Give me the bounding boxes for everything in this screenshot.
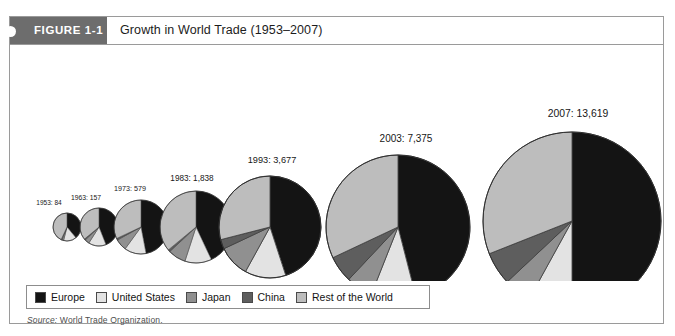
legend-label: China (258, 291, 285, 303)
legend-item: United States (96, 291, 175, 303)
figure-header: FIGURE 1-1 Growth in World Trade (1953–2… (10, 17, 663, 45)
legend-item: China (242, 291, 285, 303)
pie-value-label-1983: 1983: 1,838 (170, 174, 214, 183)
pie-chart-1993 (219, 176, 321, 278)
pie-chart-1963 (80, 208, 118, 246)
pie-series-group (53, 132, 661, 281)
pie-chart-plot-area: 1953: 841963: 1571973: 5791983: 1,838199… (10, 45, 663, 281)
chart-legend: EuropeUnited StatesJapanChinaRest of the… (26, 285, 430, 309)
figure-title: Growth in World Trade (1953–2007) (120, 17, 322, 44)
pie-value-label-1953: 1953: 84 (36, 199, 62, 206)
legend-swatch-icon (296, 292, 307, 303)
legend-label: United States (112, 291, 175, 303)
legend-swatch-icon (96, 292, 107, 303)
source-value: World Trade Organization. (60, 315, 163, 325)
pie-value-label-2007: 2007: 13,619 (548, 108, 609, 119)
pie-slice-2003-europe (398, 155, 470, 281)
legend-item: Japan (186, 291, 231, 303)
pie-value-label-2003: 2003: 7,375 (380, 133, 433, 144)
legend-label: Europe (51, 291, 85, 303)
source-note: Source: World Trade Organization. (27, 315, 163, 325)
pie-chart-2007 (483, 132, 661, 281)
legend-label: Japan (202, 291, 231, 303)
pie-value-label-1993: 1993: 3,677 (248, 155, 297, 165)
legend-item: Europe (35, 291, 85, 303)
pie-chart-1953 (53, 213, 81, 241)
pie-chart-2003 (326, 155, 470, 281)
legend-item: Rest of the World (296, 291, 393, 303)
legend-swatch-icon (186, 292, 197, 303)
source-label: Source: (27, 315, 57, 325)
legend-swatch-icon (242, 292, 253, 303)
figure-number-tab: FIGURE 1-1 (10, 17, 107, 44)
legend-swatch-icon (35, 292, 46, 303)
tab-notch-decoration (5, 26, 16, 37)
pie-value-label-1963: 1963: 157 (71, 194, 101, 201)
figure-container: FIGURE 1-1 Growth in World Trade (1953–2… (9, 16, 664, 324)
figure-number-label: FIGURE 1-1 (34, 17, 103, 44)
pie-value-label-1973: 1973: 579 (114, 184, 146, 193)
pie-slice-2007-europe (572, 132, 661, 281)
pie-chart-svg: 1953: 841963: 1571973: 5791983: 1,838199… (10, 45, 663, 281)
legend-label: Rest of the World (312, 291, 393, 303)
